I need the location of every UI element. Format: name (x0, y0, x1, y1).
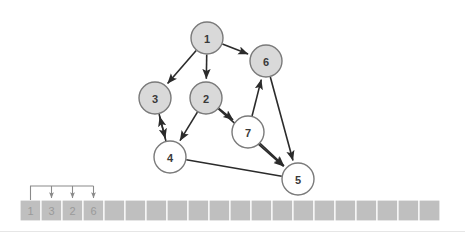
bracket-spine (31, 186, 94, 200)
array-cell[interactable] (419, 200, 440, 221)
array-cell[interactable] (272, 200, 293, 221)
graph-edge-6-5 (270, 77, 293, 161)
node-label-4: 4 (167, 152, 174, 164)
array-cell-value: 6 (90, 205, 96, 217)
graph-node-7[interactable]: 7 (232, 116, 264, 148)
node-label-5: 5 (295, 174, 301, 186)
array-cell[interactable]: 6 (83, 200, 104, 221)
array-cell[interactable]: 1 (20, 200, 41, 221)
graph-nodes: 1632745 (139, 22, 314, 195)
array-cell-box (335, 200, 356, 221)
array-cell-box (356, 200, 377, 221)
queue-array: 1326 (20, 200, 440, 221)
graph-node-3[interactable]: 3 (139, 82, 171, 114)
graph-node-4[interactable]: 4 (154, 141, 186, 173)
array-cell[interactable] (146, 200, 167, 221)
array-cell-box (377, 200, 398, 221)
array-cell[interactable] (167, 200, 188, 221)
array-cell-box (167, 200, 188, 221)
node-label-7: 7 (245, 127, 251, 139)
array-cell[interactable] (293, 200, 314, 221)
array-cell-box (314, 200, 335, 221)
array-cell-box (293, 200, 314, 221)
array-cell-value: 2 (69, 205, 75, 217)
array-cell-box (272, 200, 293, 221)
array-cell-box (419, 200, 440, 221)
array-cell-box (230, 200, 251, 221)
array-cell[interactable] (230, 200, 251, 221)
queue-pointer-bracket (31, 186, 94, 200)
node-label-3: 3 (152, 93, 158, 105)
array-cell[interactable] (398, 200, 419, 221)
array-cell[interactable] (335, 200, 356, 221)
array-cell-value: 3 (48, 205, 54, 217)
array-cell[interactable]: 3 (41, 200, 62, 221)
array-cell[interactable] (188, 200, 209, 221)
array-cell[interactable] (125, 200, 146, 221)
array-cell-box (398, 200, 419, 221)
graph-edge-7-6 (252, 80, 261, 116)
array-cell[interactable] (314, 200, 335, 221)
array-cell[interactable] (251, 200, 272, 221)
graph-figure: 1632745 1326 (0, 0, 465, 236)
graph-node-2[interactable]: 2 (190, 82, 222, 114)
array-cell-box (104, 200, 125, 221)
graph-edge-1-3 (168, 50, 197, 83)
graph-edge-4-5 (186, 160, 281, 176)
array-cell-box (125, 200, 146, 221)
graph-edge-1-6 (222, 44, 248, 54)
array-cell-box (251, 200, 272, 221)
graph-edge-4-3 (160, 117, 166, 141)
graph-node-1[interactable]: 1 (191, 22, 223, 54)
graph-node-6[interactable]: 6 (250, 45, 282, 77)
graph-edge-2-4 (180, 112, 197, 141)
array-cell[interactable] (356, 200, 377, 221)
graph-node-5[interactable]: 5 (282, 163, 314, 195)
array-cell-box (146, 200, 167, 221)
node-label-6: 6 (263, 56, 269, 68)
array-cell-value: 1 (27, 205, 33, 217)
array-cell-box (188, 200, 209, 221)
node-label-1: 1 (204, 33, 210, 45)
array-cell-box (209, 200, 230, 221)
array-cell[interactable] (377, 200, 398, 221)
graph-edge-7-5 (260, 143, 284, 166)
array-cell[interactable]: 2 (62, 200, 83, 221)
node-label-2: 2 (203, 93, 209, 105)
array-cell[interactable] (209, 200, 230, 221)
array-cell[interactable] (104, 200, 125, 221)
